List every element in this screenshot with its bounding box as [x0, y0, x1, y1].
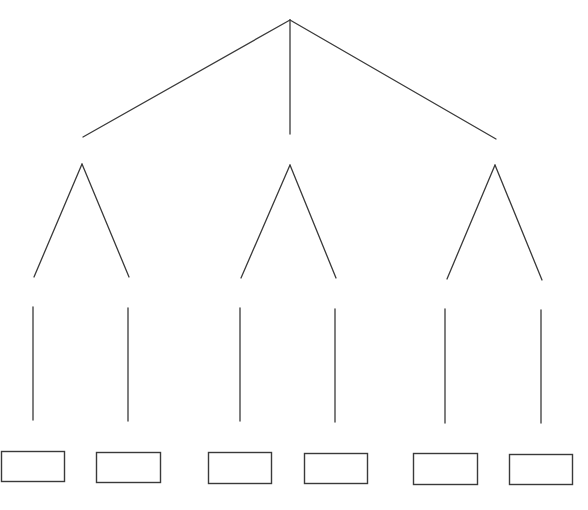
leaf-box	[305, 454, 368, 484]
leaf-box	[414, 454, 478, 485]
tree-diagram-svg	[0, 0, 588, 510]
subtree-right-branch	[82, 164, 129, 277]
leaf-box	[2, 452, 65, 482]
root-branch-line	[83, 20, 290, 137]
leaf-box	[209, 453, 272, 484]
subtree-left-branch	[447, 165, 495, 279]
subtree-right-branch	[495, 165, 542, 280]
subtree-branches	[34, 164, 542, 280]
tree-diagram	[0, 0, 588, 510]
leaf-box	[97, 453, 161, 483]
subtree-right-branch	[290, 165, 336, 278]
root-branch-line	[290, 20, 496, 139]
leaf-box	[510, 455, 573, 485]
subtree-left-branch	[34, 164, 82, 277]
leaf-stems	[33, 307, 541, 423]
root-branches	[83, 20, 496, 139]
leaf-boxes	[2, 452, 573, 485]
subtree-left-branch	[241, 165, 290, 278]
